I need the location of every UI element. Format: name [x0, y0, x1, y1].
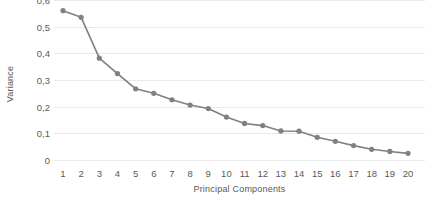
data-point-marker: [351, 143, 356, 148]
data-point-marker: [333, 139, 338, 144]
x-axis-tick-label: 11: [240, 168, 250, 179]
x-axis-tick-label: 3: [97, 168, 102, 179]
data-point-marker: [315, 135, 320, 140]
y-axis-title-label: Variance: [5, 66, 15, 102]
x-axis-tick-label: 19: [385, 168, 396, 179]
x-axis-tick-label: 14: [294, 168, 305, 179]
x-axis-tick-label: 7: [169, 168, 174, 179]
data-point-marker: [115, 71, 120, 76]
y-axis-tick-label: 0,6: [37, 0, 50, 6]
x-axis-tick-label: 12: [257, 168, 268, 179]
data-point-marker: [369, 147, 374, 152]
y-axis-tick-label: 0,3: [37, 75, 50, 86]
data-point-marker: [278, 128, 283, 133]
data-point-marker: [188, 102, 193, 107]
y-axis-tick-labels: 0,60,50,40,30,20,10: [18, 0, 54, 168]
data-point-marker: [224, 114, 229, 119]
x-axis-tick-label: 9: [206, 168, 211, 179]
x-axis-tick-label: 13: [276, 168, 287, 179]
y-axis-tick-label: 0,1: [37, 128, 50, 139]
x-axis-tick-label: 2: [79, 168, 84, 179]
y-axis-title: Variance: [2, 0, 18, 168]
x-axis-tick-label: 18: [366, 168, 377, 179]
x-axis-title-label: Principal Components: [54, 184, 425, 194]
x-axis-tick-label: 16: [330, 168, 341, 179]
y-axis-tick-label: 0: [45, 155, 50, 166]
x-axis-tick-label: 20: [403, 168, 414, 179]
data-point-marker: [169, 97, 174, 102]
data-point-marker: [260, 123, 265, 128]
data-point-marker: [60, 8, 65, 13]
data-point-marker: [296, 129, 301, 134]
data-point-marker: [206, 106, 211, 111]
data-point-marker: [79, 15, 84, 20]
plot-area: [54, 0, 425, 168]
x-axis-tick-label: 6: [151, 168, 156, 179]
x-axis-tick-label: 4: [115, 168, 120, 179]
y-axis-tick-label: 0,5: [37, 21, 50, 32]
data-point-marker: [133, 86, 138, 91]
series-line-variance: [54, 0, 425, 168]
x-axis-tick-label: 10: [221, 168, 232, 179]
x-axis-tick-label: 8: [187, 168, 192, 179]
scree-plot-chart: Variance 0,60,50,40,30,20,10 12345678910…: [0, 0, 436, 208]
x-axis-tick-labels: 1234567891011121314151617181920: [54, 168, 425, 184]
y-axis-tick-label: 0,4: [37, 48, 50, 59]
data-point-marker: [405, 151, 410, 156]
x-axis-tick-label: 5: [133, 168, 138, 179]
data-point-marker: [242, 121, 247, 126]
data-point-marker: [387, 149, 392, 154]
x-axis-tick-label: 17: [348, 168, 359, 179]
data-point-marker: [97, 56, 102, 61]
x-axis-tick-label: 15: [312, 168, 323, 179]
y-axis-tick-label: 0,2: [37, 101, 50, 112]
x-axis-tick-label: 1: [60, 168, 65, 179]
data-point-marker: [151, 91, 156, 96]
